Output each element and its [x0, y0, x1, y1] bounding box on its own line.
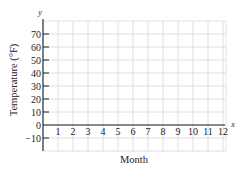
x-tick-label: 9: [176, 126, 181, 137]
x-tick-label: 4: [101, 126, 106, 137]
x-tick-label: 1: [56, 126, 61, 137]
x-tick-label: 8: [161, 126, 166, 137]
x-tick-label: 10: [188, 126, 198, 137]
x-tick-label: 3: [86, 126, 91, 137]
y-axis-label: Temperature (°F): [8, 43, 20, 116]
y-tick-label: 40: [31, 68, 41, 79]
x-tick-label: 11: [203, 126, 213, 137]
x-tick-label: 5: [116, 126, 121, 137]
y-tick-label: 10: [31, 107, 41, 118]
y-tick-label: 70: [31, 29, 41, 40]
chart: 706050403020100−10 123456789101112 Tempe…: [0, 0, 249, 171]
y-tick-label: 50: [31, 55, 41, 66]
x-tick-label: 6: [131, 126, 136, 137]
x-tick-labels: 123456789101112: [56, 126, 229, 137]
x-axis-label: Month: [120, 154, 149, 165]
y-tick-label: 60: [31, 42, 41, 53]
y-tick-label: −10: [25, 133, 41, 144]
x-tick-label: 7: [146, 126, 151, 137]
x-tick-label: 12: [218, 126, 228, 137]
y-tick-labels: 706050403020100−10: [25, 29, 41, 144]
y-tick-label: 0: [36, 120, 41, 131]
y-tick-label: 20: [31, 94, 41, 105]
y-axis-name: y: [37, 8, 42, 17]
y-tick-label: 30: [31, 81, 41, 92]
x-axis-name: x: [230, 120, 235, 129]
x-tick-label: 2: [71, 126, 76, 137]
